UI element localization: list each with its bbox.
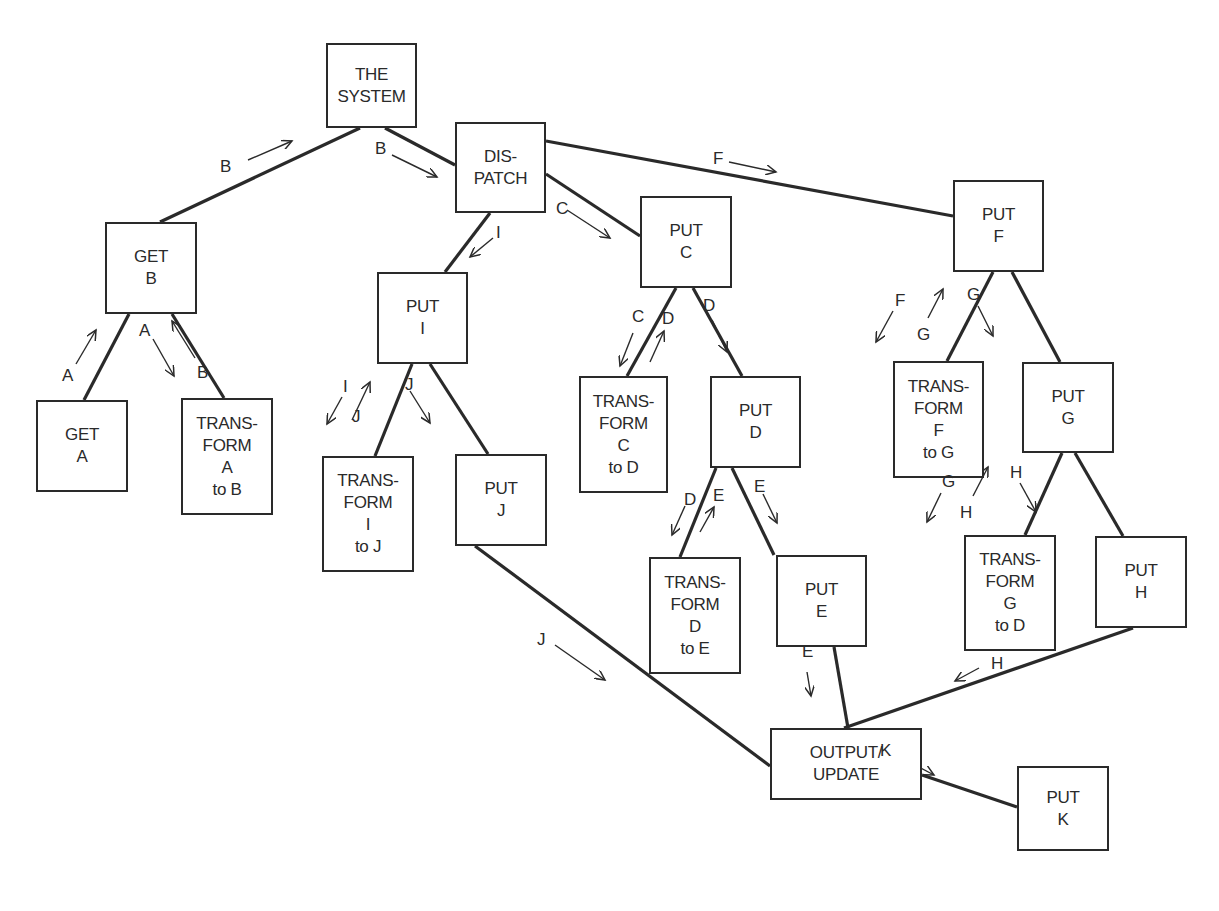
node-label-line: to D	[609, 457, 639, 479]
edge-put_f-to-put_g	[1012, 272, 1060, 362]
flow-label: F	[713, 150, 723, 168]
node-label-line: D	[750, 422, 762, 444]
node-label-line: to E	[680, 638, 709, 660]
node-label-line: E	[816, 601, 827, 623]
flow-arrow-icon	[392, 155, 437, 177]
node-transform-i-j: TRANS-FORMIto J	[322, 456, 414, 572]
node-label-line: to B	[212, 479, 241, 501]
flow-arrow-icon	[567, 210, 610, 238]
flow-label: G	[917, 326, 930, 344]
flow-arrow-icon	[470, 238, 493, 257]
flow-label: K	[880, 742, 891, 760]
flow-arrow-icon	[700, 507, 714, 532]
node-label-line: THE	[355, 64, 388, 86]
node-get-a: GETA	[36, 400, 128, 492]
node-label-line: I	[366, 514, 370, 536]
node-label-line: UPDATE	[813, 764, 879, 786]
node-label-line: PUT	[982, 204, 1015, 226]
node-get-b: GETB	[105, 222, 197, 314]
node-dispatch: DIS-PATCH	[455, 122, 546, 213]
flow-label: H	[1010, 464, 1022, 482]
flow-label: G	[967, 286, 980, 304]
node-put-j: PUTJ	[455, 454, 547, 546]
node-label-line: G	[1004, 593, 1017, 615]
node-label-line: FORM	[914, 398, 963, 420]
node-label-line: A	[76, 446, 87, 468]
node-label-line: I	[420, 318, 424, 340]
flow-arrow-icon	[650, 331, 664, 362]
flow-arrow-icon	[1020, 483, 1036, 512]
flow-arrow-icon	[876, 311, 893, 342]
node-put-d: PUTD	[710, 376, 801, 468]
node-label-line: TRANS-	[664, 572, 725, 594]
node-transform-d-e: TRANS-FORMDto E	[649, 557, 741, 674]
node-label-line: TRANS-	[196, 413, 257, 435]
node-label-line: TRANS-	[979, 549, 1040, 571]
node-label-line: C	[618, 435, 630, 457]
node-label-line: H	[1135, 582, 1147, 604]
flow-label: E	[713, 487, 724, 505]
node-label-line: FORM	[599, 413, 648, 435]
node-label-line: K	[1057, 809, 1068, 831]
node-label-line: G	[1062, 408, 1075, 430]
node-put-i: PUTI	[377, 272, 468, 364]
flow-label: I	[343, 378, 348, 396]
flow-label: D	[684, 491, 696, 509]
flow-arrow-icon	[410, 391, 430, 423]
flow-label: D	[703, 297, 715, 315]
node-label-line: to G	[923, 442, 954, 464]
flow-arrow-icon	[248, 141, 292, 160]
node-label-line: GET	[65, 424, 99, 446]
node-label-line: A	[221, 457, 232, 479]
flow-arrow-icon	[712, 320, 727, 352]
node-label-line: TRANS-	[593, 391, 654, 413]
flow-label: B	[197, 364, 208, 382]
flow-arrow-icon	[172, 321, 195, 358]
node-label-line: FORM	[203, 435, 252, 457]
node-label-line: FORM	[986, 571, 1035, 593]
flow-label: J	[352, 408, 361, 426]
edge-dispatch-to-put_f	[546, 141, 953, 216]
node-label-line: J	[497, 500, 505, 522]
node-label-line: OUTPUT/	[810, 742, 883, 764]
flow-label: B	[220, 158, 231, 176]
node-transform-c-d: TRANS-FORMCto D	[579, 376, 668, 493]
node-label-line: to D	[995, 615, 1025, 637]
node-label-line: PATCH	[474, 168, 528, 190]
flow-label: C	[556, 200, 568, 218]
node-label-line: FORM	[344, 492, 393, 514]
flow-label: A	[62, 367, 73, 385]
node-put-k: PUTK	[1017, 766, 1109, 851]
flow-arrow-icon	[763, 494, 777, 523]
flow-label: C	[632, 308, 644, 326]
edge-system-to-dispatch	[385, 128, 455, 165]
flow-arrow-icon	[955, 668, 979, 681]
flow-label: G	[942, 473, 955, 491]
node-label-line: SYSTEM	[337, 86, 405, 108]
node-label-line: PUT	[669, 220, 702, 242]
flow-label: A	[139, 322, 150, 340]
edge-put_g-to-transform_g_d	[1025, 453, 1062, 535]
edge-put_d-to-put_e	[732, 468, 774, 555]
flow-arrow-icon	[620, 333, 633, 366]
node-put-c: PUTC	[640, 196, 732, 288]
node-label-line: PUT	[1124, 560, 1157, 582]
flow-arrow-icon	[807, 672, 811, 696]
diagram-canvas: THESYSTEMDIS-PATCHGETBGETATRANS-FORMAto …	[0, 0, 1219, 911]
edge-get_b-to-transform_a_b	[172, 314, 224, 398]
node-put-g: PUTG	[1022, 362, 1114, 453]
node-label-line: FORM	[671, 594, 720, 616]
flow-arrow-icon	[153, 339, 174, 376]
edge-put_c-to-transform_c_d	[627, 288, 676, 376]
node-label-line: B	[145, 268, 156, 290]
flow-arrow-icon	[927, 493, 941, 522]
flow-arrow-icon	[928, 289, 943, 318]
node-output-update: OUTPUT/UPDATE	[770, 728, 922, 800]
node-label-line: to J	[355, 536, 381, 558]
edge-put_g-to-put_h	[1075, 453, 1123, 536]
node-label-line: TRANS-	[908, 376, 969, 398]
flow-label: D	[662, 310, 674, 328]
edge-output_update-to-put_k	[922, 775, 1017, 807]
flow-arrow-icon	[76, 330, 96, 364]
node-label-line: C	[680, 242, 692, 264]
